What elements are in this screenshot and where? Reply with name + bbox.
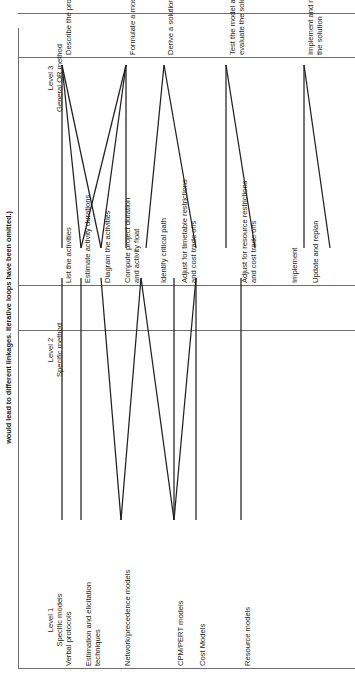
link-cpm-to-adjust-timetable bbox=[174, 278, 196, 520]
link-diagram-to-formulate bbox=[101, 65, 126, 248]
link-estimate-to-formulate bbox=[81, 65, 126, 248]
link-adjust-timetable-to-derive bbox=[164, 65, 196, 248]
link-network-to-compute bbox=[121, 278, 141, 520]
link-estimate-to-describe bbox=[62, 65, 81, 248]
linkage-lines bbox=[0, 0, 355, 688]
link-cpm-to-compute bbox=[141, 278, 174, 520]
link-update-to-implement-maintain bbox=[304, 65, 330, 248]
link-diagram-to-describe bbox=[62, 65, 101, 248]
diagram-canvas: would lead to different linkages. Iterat… bbox=[0, 0, 355, 688]
link-identify-to-derive bbox=[146, 65, 164, 248]
link-network-to-diagram bbox=[101, 278, 121, 520]
link-adjust-resource-to-test bbox=[226, 65, 255, 248]
